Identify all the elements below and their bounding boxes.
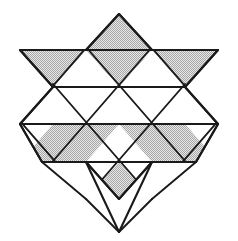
bottom-spike-right-edge [152,162,196,199]
bottom-spike-left-edge [42,162,86,199]
bottom-rhombus-lower-edges [86,199,152,232]
figure-container: Hexagram star tiling [0,0,238,241]
hexagram-figure [0,0,238,241]
